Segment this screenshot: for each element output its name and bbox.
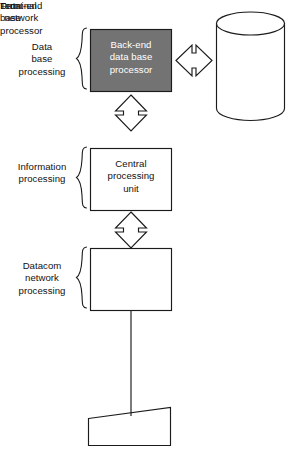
diagram-canvas: Data base processing Information process… — [0, 0, 303, 462]
group-label-information-processing: Information processing — [2, 161, 82, 186]
group-label-data-base-processing: Data base processing — [4, 41, 80, 78]
group-label-datacom-network-processing: Datacom network processing — [4, 260, 80, 297]
back-end-data-base-processor-shape[interactable] — [91, 30, 172, 92]
cpu-to-backend-arrow — [116, 95, 147, 131]
frontend-to-cpu-arrow — [116, 212, 147, 248]
front-end-network-processor-shape[interactable] — [91, 249, 172, 311]
central-processing-unit-shape[interactable] — [91, 149, 172, 211]
terminal-shape[interactable] — [89, 408, 171, 446]
data-base-cylinder-shape[interactable] — [217, 12, 285, 121]
backend-to-database-arrow — [176, 45, 212, 76]
